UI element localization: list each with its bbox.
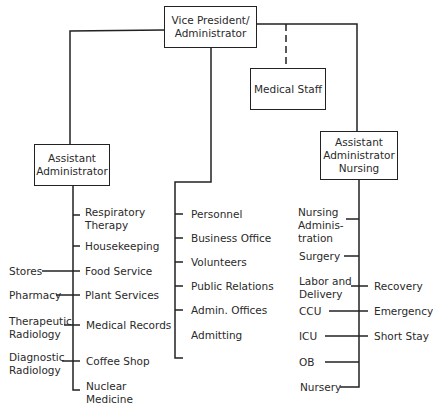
dept-coffee-shop: Coffee Shop <box>86 355 150 368</box>
dept-respiratory-therapy: Respiratory Therapy <box>85 206 145 232</box>
dept-recovery: Recovery <box>374 280 423 293</box>
dept-personnel: Personnel <box>191 208 242 221</box>
dept-nursery: Nursery <box>300 381 341 394</box>
dept-short-stay: Short Stay <box>374 330 429 343</box>
dept-ob: OB <box>299 356 314 369</box>
dept-labor-delivery: Labor and Delivery <box>299 275 352 301</box>
dept-admitting: Admitting <box>191 329 242 342</box>
dept-volunteers: Volunteers <box>191 256 247 269</box>
dept-nursing-administration: Nursing Adminis- tration <box>298 206 344 245</box>
dept-stores: Stores <box>9 265 42 278</box>
dept-nuclear-medicine: Nuclear Medicine <box>86 380 133 406</box>
dept-ccu: CCU <box>299 305 321 318</box>
dept-food-service: Food Service <box>85 265 152 278</box>
node-assistant-administrator: Assistant Administrator <box>34 144 110 186</box>
dept-diagnostic-radiology: Diagnostic Radiology <box>9 351 64 377</box>
dept-icu: ICU <box>299 330 317 343</box>
dept-emergency: Emergency <box>374 305 433 318</box>
dept-admin-offices: Admin. Offices <box>191 304 267 317</box>
node-medical-staff: Medical Staff <box>250 68 326 110</box>
node-vice-president: Vice President/ Administrator <box>164 6 257 48</box>
dept-therapeutic-radiology: Therapeutic Radiology <box>9 315 72 341</box>
dept-pharmacy: Pharmacy <box>9 289 61 302</box>
dept-business-office: Business Office <box>191 232 271 245</box>
dept-plant-services: Plant Services <box>85 289 159 302</box>
dept-surgery: Surgery <box>299 250 340 263</box>
dept-public-relations: Public Relations <box>191 280 274 293</box>
dept-medical-records: Medical Records <box>86 319 171 332</box>
dept-housekeeping: Housekeeping <box>85 240 159 253</box>
node-assistant-administrator-nursing: Assistant Administrator Nursing <box>320 131 398 180</box>
